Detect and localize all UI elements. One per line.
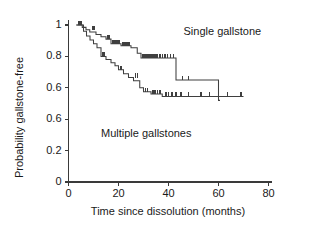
x-axis-title: Time since dissolution (months) [68, 205, 268, 217]
series-censor-marks-0 [79, 21, 189, 80]
y-tick-label-3: 0.6 [29, 113, 62, 124]
axes-group [65, 20, 273, 186]
y-tick-label-5: 0 [29, 176, 62, 187]
x-tick-label-4: 80 [249, 188, 289, 199]
series-label-single-gallstone: Single gallstone [184, 25, 262, 37]
series-label-multiple-gallstones: Multiple gallstones [101, 127, 192, 139]
y-tick-label-1: 0.8 [29, 50, 62, 61]
y-tick-label-4: 0.2 [29, 145, 62, 156]
kaplan-meier-figure: 10.80.60.60.20 020406080 Probability gal… [0, 0, 310, 227]
x-tick-label-0: 0 [49, 188, 89, 199]
y-tick-label-0: 1 [29, 19, 62, 30]
y-tick-label-2: 0.6 [29, 82, 62, 93]
x-tick-label-3: 60 [199, 188, 239, 199]
x-tick-label-2: 40 [149, 188, 189, 199]
x-tick-label-1: 20 [99, 188, 139, 199]
y-axis-title: Probability gallstone-free [13, 57, 25, 178]
